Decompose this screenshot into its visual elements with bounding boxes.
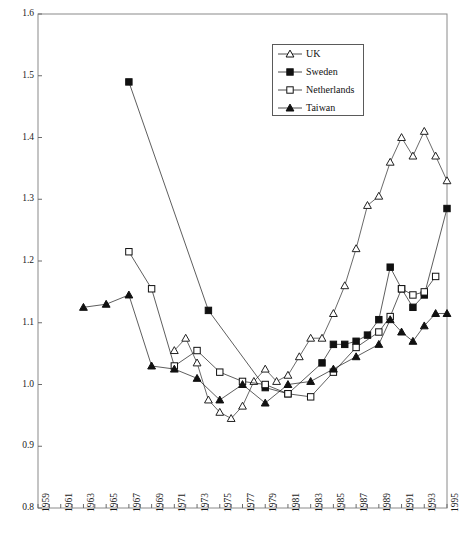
data-point-marker bbox=[375, 340, 383, 347]
x-axis-tick-label: 1985 bbox=[337, 493, 347, 512]
x-axis-tick-label: 1993 bbox=[428, 493, 438, 512]
data-point-marker bbox=[432, 273, 438, 279]
data-point-marker bbox=[420, 127, 428, 134]
data-point-marker bbox=[387, 264, 393, 270]
data-point-marker bbox=[409, 337, 417, 344]
data-point-marker bbox=[286, 50, 294, 57]
data-point-marker bbox=[125, 291, 133, 298]
data-point-marker bbox=[353, 338, 359, 344]
data-point-marker bbox=[287, 69, 293, 75]
data-point-marker bbox=[443, 177, 451, 184]
x-axis-tick-label: 1983 bbox=[315, 493, 325, 512]
data-point-marker bbox=[352, 245, 360, 252]
legend-marker-icon bbox=[277, 101, 303, 115]
data-point-marker bbox=[262, 381, 268, 387]
data-point-marker bbox=[352, 353, 360, 360]
data-point-marker bbox=[432, 152, 440, 159]
legend-item-uk[interactable]: UK bbox=[273, 45, 363, 63]
series-line bbox=[129, 252, 436, 397]
x-axis-tick-label: 1979 bbox=[269, 493, 279, 512]
data-point-marker bbox=[285, 391, 291, 397]
x-axis-tick-label: 1981 bbox=[292, 493, 302, 512]
series-line bbox=[174, 131, 447, 418]
plot-frame bbox=[38, 14, 447, 508]
legend-marker-icon bbox=[277, 47, 303, 61]
data-point-marker bbox=[307, 378, 315, 385]
x-axis-tick-label: 1987 bbox=[360, 493, 370, 512]
data-point-marker bbox=[410, 292, 416, 298]
x-axis-tick-label: 1969 bbox=[156, 493, 166, 512]
x-axis-tick-label: 1989 bbox=[383, 493, 393, 512]
data-point-marker bbox=[295, 353, 303, 360]
y-axis-tick-label: 0.9 bbox=[2, 441, 34, 451]
legend-item-netherlands[interactable]: Netherlands bbox=[273, 81, 363, 99]
data-point-marker bbox=[239, 402, 247, 409]
legend-item-label: Taiwan bbox=[306, 103, 335, 113]
y-axis-tick-label: 1.5 bbox=[2, 71, 34, 81]
legend-marker-icon bbox=[277, 83, 303, 97]
data-point-marker bbox=[376, 329, 382, 335]
x-axis-tick-label: 1959 bbox=[42, 493, 52, 512]
y-axis-tick-label: 1.6 bbox=[2, 9, 34, 19]
data-point-marker bbox=[102, 300, 110, 307]
data-point-marker bbox=[148, 286, 154, 292]
y-axis-tick-label: 1.0 bbox=[2, 380, 34, 390]
legend-item-label: UK bbox=[306, 49, 320, 59]
x-axis-tick-label: 1991 bbox=[406, 493, 416, 512]
data-point-marker bbox=[386, 158, 394, 165]
data-point-marker bbox=[443, 310, 451, 317]
series-line bbox=[129, 82, 447, 394]
data-point-marker bbox=[217, 369, 223, 375]
data-point-marker bbox=[307, 394, 313, 400]
y-axis-tick-label: 1.1 bbox=[2, 318, 34, 328]
data-point-marker bbox=[193, 359, 201, 366]
y-axis-tick-label: 1.2 bbox=[2, 256, 34, 266]
data-point-marker bbox=[205, 396, 213, 403]
data-point-marker bbox=[409, 152, 417, 159]
x-axis-tick-label: 1963 bbox=[87, 493, 97, 512]
legend-item-label: Netherlands bbox=[306, 85, 354, 95]
y-axis-tick-label: 1.4 bbox=[2, 133, 34, 143]
data-point-marker bbox=[398, 134, 406, 141]
x-axis-tick-label: 1967 bbox=[133, 493, 143, 512]
data-point-marker bbox=[193, 374, 201, 381]
data-point-marker bbox=[182, 334, 190, 341]
chart-legend: UKSwedenNetherlandsTaiwan bbox=[272, 44, 364, 116]
legend-item-taiwan[interactable]: Taiwan bbox=[273, 99, 363, 117]
x-axis-tick-label: 1971 bbox=[178, 493, 188, 512]
data-point-marker bbox=[364, 202, 372, 209]
data-point-marker bbox=[126, 79, 132, 85]
legend-item-label: Sweden bbox=[306, 67, 338, 77]
data-point-marker bbox=[329, 310, 337, 317]
data-point-marker bbox=[364, 332, 370, 338]
data-point-marker bbox=[421, 289, 427, 295]
data-point-marker bbox=[148, 362, 156, 369]
data-point-marker bbox=[287, 87, 293, 93]
data-point-marker bbox=[353, 344, 359, 350]
data-point-marker bbox=[341, 282, 349, 289]
y-axis-tick-label: 1.3 bbox=[2, 194, 34, 204]
data-point-marker bbox=[286, 104, 294, 111]
data-point-marker bbox=[319, 360, 325, 366]
data-point-marker bbox=[126, 249, 132, 255]
x-axis-tick-label: 1995 bbox=[451, 493, 461, 512]
x-axis-tick-label: 1961 bbox=[65, 493, 75, 512]
y-axis-ticks bbox=[38, 14, 42, 508]
data-point-marker bbox=[261, 365, 269, 372]
data-point-marker bbox=[444, 205, 450, 211]
data-point-marker bbox=[194, 347, 200, 353]
x-axis-tick-label: 1975 bbox=[224, 493, 234, 512]
data-point-marker bbox=[307, 334, 315, 341]
series-netherlands bbox=[126, 249, 439, 401]
data-point-marker bbox=[318, 334, 326, 341]
data-point-marker bbox=[284, 371, 292, 378]
x-axis-tick-label: 1977 bbox=[247, 493, 257, 512]
legend-item-sweden[interactable]: Sweden bbox=[273, 63, 363, 81]
legend-marker-icon bbox=[277, 65, 303, 79]
y-axis-tick-label: 0.8 bbox=[2, 503, 34, 513]
x-axis-tick-label: 1965 bbox=[110, 493, 120, 512]
data-point-marker bbox=[205, 307, 211, 313]
data-point-marker bbox=[398, 286, 404, 292]
